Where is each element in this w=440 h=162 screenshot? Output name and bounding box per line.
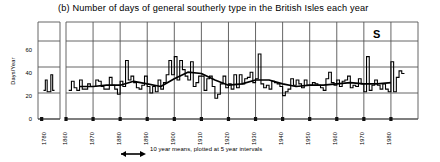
- chart-figure: (b) Number of days of general southerly …: [0, 0, 440, 162]
- plot-area: [0, 0, 440, 162]
